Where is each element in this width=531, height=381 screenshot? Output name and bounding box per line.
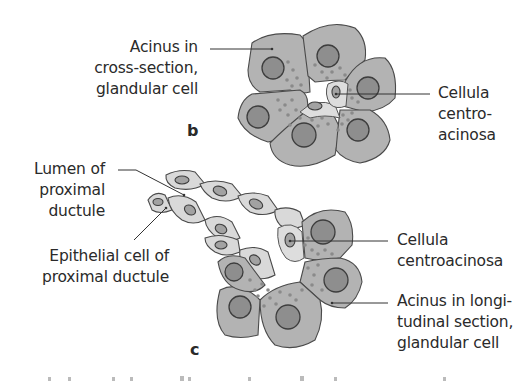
panel-letter-b: b xyxy=(187,121,198,140)
label-lumen-proximal-ductule: Lumen of proximal ductule xyxy=(34,159,105,222)
label-centroacinar-b: Cellula centro- acinosa xyxy=(438,83,496,146)
ductule-and-acinus-longitudinal xyxy=(148,171,362,348)
label-centroacinar-c: Cellula centroacinosa xyxy=(397,230,503,272)
panel-letter-c: c xyxy=(190,340,199,359)
cropped-caption-fragments xyxy=(0,373,531,381)
label-acinus-longitudinal: Acinus in longi- tudinal section, glandu… xyxy=(397,291,513,354)
label-epithelial-cell: Epithelial cell of proximal ductule xyxy=(42,246,169,288)
leader-epithelial xyxy=(134,208,166,240)
label-acinus-cross-section: Acinus in cross-section, glandular cell xyxy=(94,37,198,100)
acinus-cross-section xyxy=(238,24,396,166)
